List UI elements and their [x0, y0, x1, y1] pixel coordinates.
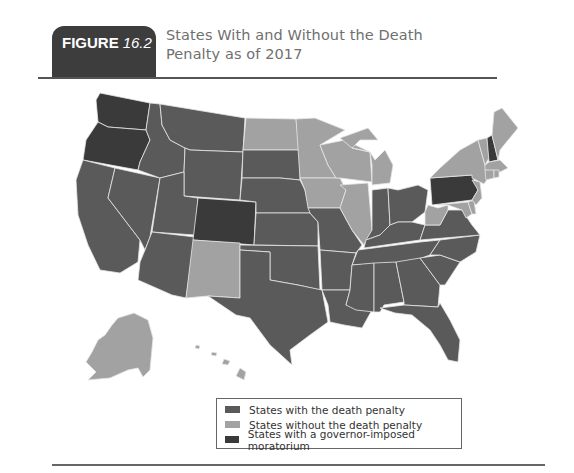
legend-swatch-moratorium [225, 436, 239, 443]
figure-title-line-1: States With and Without the Death [166, 26, 496, 45]
legend-item-moratorium: States with a governor-imposed moratoriu… [225, 432, 461, 447]
state-OH [388, 185, 428, 225]
state-ME [492, 108, 518, 160]
state-WY [184, 148, 243, 200]
us-map [0, 80, 574, 400]
legend-swatch-death-penalty [225, 406, 240, 413]
state-FL [380, 303, 460, 362]
header-rule [38, 77, 497, 79]
state-CT [485, 170, 494, 180]
state-RI [494, 170, 499, 178]
legend-swatch-no-death-penalty [225, 421, 240, 428]
figure-label-tab: FIGURE16.2 [52, 26, 156, 78]
state-HI [236, 368, 246, 380]
footer-rule [52, 464, 545, 466]
state-PA [430, 175, 478, 205]
state-AK [86, 313, 153, 380]
state-ND [243, 118, 300, 150]
legend-label: States with the death penalty [249, 404, 405, 416]
figure-number: 16.2 [123, 34, 152, 51]
state-IA [300, 178, 346, 208]
legend-item-death-penalty: States with the death penalty [225, 402, 461, 417]
state-CO [193, 198, 256, 245]
state-WA [96, 93, 150, 130]
legend-label: States with a governor-imposed moratoriu… [248, 428, 461, 452]
map-legend: States with the death penalty States wit… [216, 398, 462, 449]
figure-label: FIGURE [62, 34, 119, 51]
state-HI-island4 [195, 345, 200, 349]
figure-title-line-2: Penalty as of 2017 [166, 45, 496, 64]
figure-title: States With and Without the Death Penalt… [166, 26, 496, 64]
state-NM [186, 240, 240, 298]
state-KS [254, 213, 318, 246]
state-SD [242, 150, 300, 180]
state-HI-island3 [211, 352, 217, 356]
state-HI-island2 [222, 359, 230, 365]
